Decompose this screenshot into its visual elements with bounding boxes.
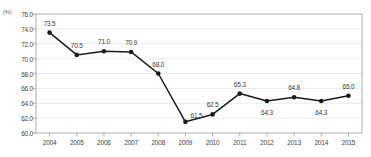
data-point-label: 71.0	[98, 38, 110, 45]
x-tick-label: 2010	[206, 139, 220, 146]
data-point-label: 65.3	[234, 80, 246, 87]
x-tick-label: 2008	[151, 139, 165, 146]
x-tick-label: 2006	[97, 139, 111, 146]
x-tick-label: 2012	[260, 139, 274, 146]
data-point-label: 62.5	[207, 101, 219, 108]
data-point-label: 64.3	[261, 109, 273, 116]
data-point-label: 68.0	[152, 60, 164, 67]
data-point-label: 61.5	[190, 111, 202, 118]
data-point-label: 65.0	[342, 82, 354, 89]
x-tick-label: 2009	[179, 139, 193, 146]
data-point-label: 64.8	[288, 84, 300, 91]
x-tick-label: 2014	[314, 139, 328, 146]
x-tick-label: 2004	[43, 139, 57, 146]
data-point-label: 70.9	[125, 38, 137, 45]
x-tick-label: 2007	[124, 139, 138, 146]
x-tick-label: 2011	[233, 139, 246, 146]
x-tick-label: 2013	[287, 139, 301, 146]
data-point-label: 73.5	[44, 19, 56, 26]
x-tick-label: 2005	[70, 139, 84, 146]
line-chart: (%) 76.074.072.070.068.066.064.062.060.0…	[0, 0, 371, 157]
x-tick-label: 2015	[342, 139, 356, 146]
data-point-label: 64.3	[315, 109, 327, 116]
data-point-label: 70.5	[71, 41, 83, 48]
